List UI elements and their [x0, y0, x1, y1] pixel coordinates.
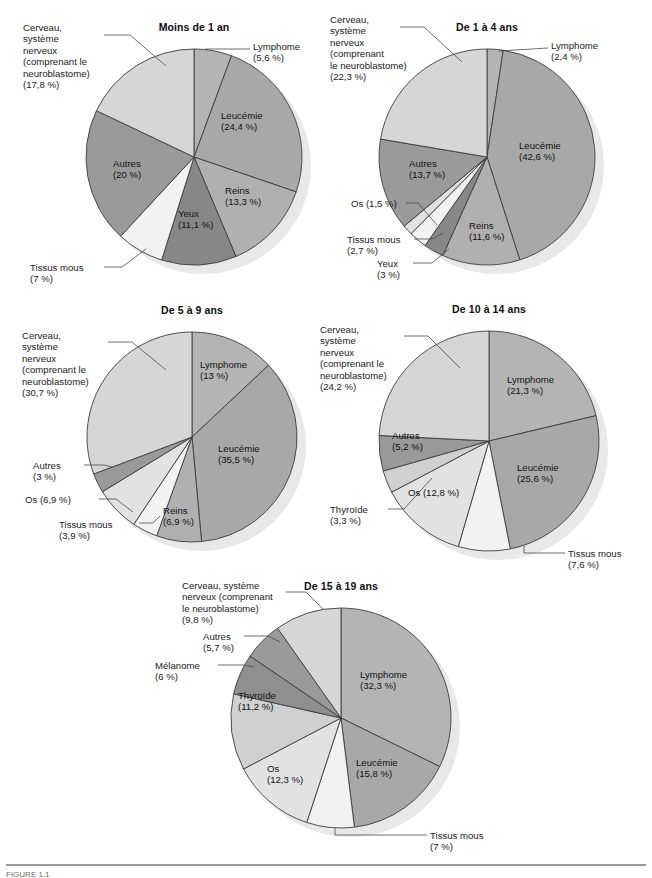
footer-divider [6, 864, 646, 866]
pie-svg-de-15-a-19-ans: Lymphome (32,3 %)Leucémie (15,8 %)Tissus… [0, 0, 652, 878]
slice-callout-label: Tissus mous (7 %) [430, 830, 484, 853]
figure-page: Lymphome (5,6 %)Leucémie (24,4 %)Reins (… [0, 0, 652, 878]
slice-label: Leucémie (15,8 %) [356, 757, 398, 780]
slice-callout-label: Mélanome (6 %) [155, 660, 200, 683]
slice-label: Thyroïde (11,2 %) [238, 690, 276, 713]
slice-callout-label: Autres (5,7 %) [203, 631, 234, 654]
slice-label: Lymphome (32,3 %) [360, 669, 407, 692]
pie-chart-de-15-a-19-ans: Lymphome (32,3 %)Leucémie (15,8 %)Tissus… [0, 0, 652, 878]
slice-label: Os (12,3 %) [267, 763, 303, 786]
label-leader-line [286, 592, 324, 610]
figure-caption: FIGURE 1.1 [6, 870, 50, 878]
chart-title-de-15-a-19-ans: De 15 à 19 ans [281, 580, 401, 592]
slice-callout-label: Cerveau, système nerveux (comprenant le … [182, 580, 273, 626]
